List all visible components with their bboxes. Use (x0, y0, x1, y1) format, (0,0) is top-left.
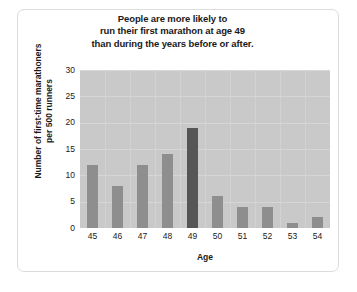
chart-title: People are more likely to run their firs… (40, 13, 305, 50)
chart-title-line-3: than during the years before or after. (40, 38, 305, 50)
gridline-vertical (105, 70, 106, 228)
x-tick-label-46: 46 (105, 232, 131, 241)
x-tick-label-45: 45 (80, 232, 106, 241)
bar-age-47 (137, 165, 148, 228)
y-tick-label: 5 (51, 197, 75, 206)
y-tick-label: 10 (51, 171, 75, 180)
x-tick-label-54: 54 (305, 232, 331, 241)
bar-age-53 (287, 223, 298, 228)
gridline-vertical (205, 70, 206, 228)
gridline-vertical (155, 70, 156, 228)
bar-age-49 (187, 128, 198, 228)
x-tick-label-47: 47 (130, 232, 156, 241)
gridline-vertical (305, 70, 306, 228)
x-tick-label-49: 49 (180, 232, 206, 241)
bar-age-51 (237, 207, 248, 228)
bar-age-54 (312, 217, 323, 228)
chart-title-line-2: run their first marathon at age 49 (40, 25, 305, 37)
y-tick-label: 15 (51, 145, 75, 154)
x-tick-label-53: 53 (280, 232, 306, 241)
chart-title-line-1: People are more likely to (40, 13, 305, 25)
y-tick-label: 0 (51, 224, 75, 233)
bar-age-52 (262, 207, 273, 228)
gridline-vertical (255, 70, 256, 228)
x-tick-label-52: 52 (255, 232, 281, 241)
y-tick-label: 25 (51, 92, 75, 101)
x-tick-label-50: 50 (205, 232, 231, 241)
gridline-vertical (280, 70, 281, 228)
y-axis-title-line-1: Number of first-time marathoners (33, 31, 44, 191)
gridline-vertical (180, 70, 181, 228)
plot-area (80, 70, 330, 228)
y-tick-label: 30 (51, 66, 75, 75)
x-axis-title: Age (80, 252, 330, 262)
bar-age-46 (112, 186, 123, 228)
x-tick-label-51: 51 (230, 232, 256, 241)
y-axis-title: Number of first-time marathoners per 500… (33, 31, 55, 191)
y-tick-label: 20 (51, 118, 75, 127)
bar-age-50 (212, 196, 223, 228)
x-tick-label-48: 48 (155, 232, 181, 241)
gridline-vertical (130, 70, 131, 228)
y-axis-title-line-2: per 500 runners (44, 31, 55, 191)
bar-age-45 (87, 165, 98, 228)
bar-age-48 (162, 154, 173, 228)
gridline-vertical (230, 70, 231, 228)
